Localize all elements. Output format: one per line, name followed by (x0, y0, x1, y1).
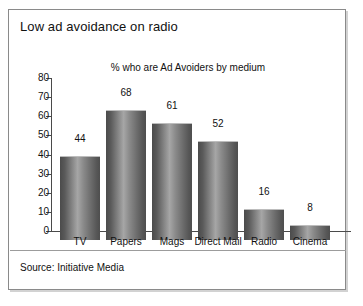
y-axis-tick-label: 40 (9, 150, 49, 160)
y-axis-tick-label: 80 (9, 73, 49, 83)
category-label: Cinema (279, 236, 341, 248)
bar-value-label: 52 (186, 118, 250, 129)
source-divider (10, 250, 346, 251)
source-note: Source: Initiative Media (20, 262, 124, 273)
y-axis-tick-label: 20 (9, 188, 49, 198)
y-axis-tick-label: 70 (9, 92, 49, 102)
chart-subtitle: % who are Ad Avoiders by medium (9, 62, 345, 73)
page-title: Low ad avoidance on radio (20, 19, 178, 34)
bar-value-label: 8 (278, 202, 342, 213)
y-axis-tick-label: 10 (9, 207, 49, 217)
bar (60, 156, 100, 240)
y-axis-tick-label: 30 (9, 169, 49, 179)
y-axis-tick-label: 50 (9, 130, 49, 140)
y-axis-line (51, 78, 52, 232)
y-axis-tick-label: 0 (9, 226, 49, 236)
chart-panel: Low ad avoidance on radio % who are Ad A… (8, 9, 346, 290)
bar (152, 123, 192, 240)
bar-value-label: 68 (94, 87, 158, 98)
bar (106, 110, 146, 240)
bar-value-label: 44 (48, 133, 112, 144)
bar-value-label: 16 (232, 186, 296, 197)
plot-area: 01020304050607080 44686152168 TVPapersMa… (35, 78, 335, 241)
bar-value-label: 61 (140, 100, 204, 111)
y-axis-tick-label: 60 (9, 111, 49, 121)
